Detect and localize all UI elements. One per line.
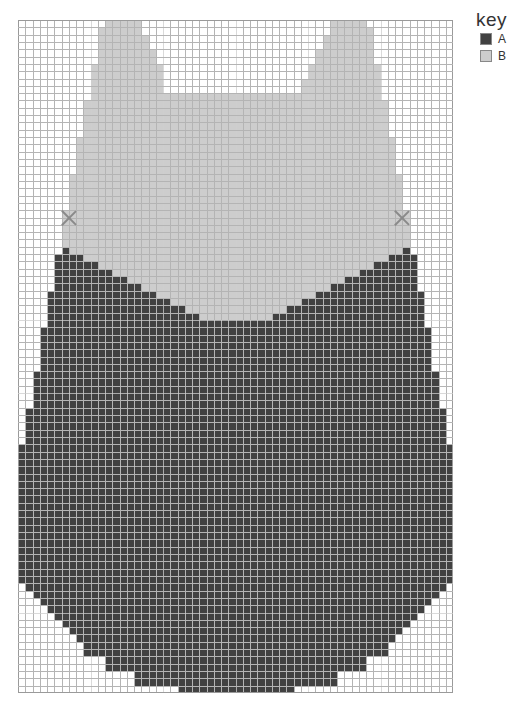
- grid-line-horizontal: [18, 247, 453, 248]
- grid-line-horizontal: [18, 627, 453, 628]
- grid-line-horizontal: [18, 517, 453, 518]
- grid-line-horizontal: [18, 598, 453, 599]
- grid-line-horizontal: [18, 144, 453, 145]
- grid-line-horizontal: [18, 86, 453, 87]
- grid-line-horizontal: [18, 415, 453, 416]
- grid-line-horizontal: [18, 656, 453, 657]
- grid-line-horizontal: [18, 137, 453, 138]
- grid-line-horizontal: [18, 108, 453, 109]
- grid-line-horizontal: [18, 64, 453, 65]
- grid-line-horizontal: [18, 561, 453, 562]
- grid-line-horizontal: [18, 42, 453, 43]
- grid-line-horizontal: [18, 269, 453, 270]
- grid-line-horizontal: [18, 692, 453, 693]
- grid-line-horizontal: [18, 430, 453, 431]
- legend-label-a: A: [498, 32, 506, 46]
- grid-line-horizontal: [18, 342, 453, 343]
- grid-line-horizontal: [18, 678, 453, 679]
- grid-line-horizontal: [18, 232, 453, 233]
- knitting-chart: [18, 20, 453, 693]
- grid-line-horizontal: [18, 634, 453, 635]
- grid-line-horizontal: [18, 298, 453, 299]
- grid-line-horizontal: [18, 466, 453, 467]
- grid-line-horizontal: [18, 488, 453, 489]
- grid-line-horizontal: [18, 210, 453, 211]
- grid-line-horizontal: [18, 349, 453, 350]
- grid-line-horizontal: [18, 583, 453, 584]
- swatch-a-icon: [480, 33, 492, 45]
- chart-gridlines: [18, 20, 453, 693]
- grid-line-horizontal: [18, 327, 453, 328]
- grid-line-horizontal: [18, 444, 453, 445]
- grid-line-horizontal: [18, 386, 453, 387]
- grid-line-horizontal: [18, 174, 453, 175]
- grid-line-horizontal: [18, 539, 453, 540]
- grid-line-horizontal: [18, 49, 453, 50]
- legend: key A B: [476, 10, 510, 64]
- grid-line-horizontal: [18, 671, 453, 672]
- grid-line-horizontal: [18, 686, 453, 687]
- grid-line-horizontal: [18, 408, 453, 409]
- grid-line-horizontal: [18, 130, 453, 131]
- grid-line-horizontal: [18, 291, 453, 292]
- grid-line-horizontal: [18, 364, 453, 365]
- grid-line-horizontal: [18, 320, 453, 321]
- grid-line-horizontal: [18, 620, 453, 621]
- grid-line-horizontal: [18, 93, 453, 94]
- grid-line-horizontal: [18, 239, 453, 240]
- grid-line-horizontal: [18, 35, 453, 36]
- grid-line-horizontal: [18, 335, 453, 336]
- grid-line-horizontal: [18, 57, 453, 58]
- grid-line-horizontal: [18, 313, 453, 314]
- grid-line-horizontal: [18, 100, 453, 101]
- grid-line-horizontal: [18, 459, 453, 460]
- legend-label-b: B: [498, 49, 506, 63]
- legend-title: key: [476, 10, 510, 30]
- grid-line-horizontal: [18, 152, 453, 153]
- swatch-b-icon: [480, 50, 492, 62]
- grid-line-horizontal: [18, 547, 453, 548]
- grid-line-horizontal: [18, 225, 453, 226]
- grid-line-horizontal: [18, 649, 453, 650]
- grid-line-horizontal: [18, 20, 453, 21]
- right-marker-x-icon: [394, 210, 410, 226]
- legend-item-b: B: [476, 48, 510, 64]
- grid-line-horizontal: [18, 452, 453, 453]
- grid-line-horizontal: [18, 254, 453, 255]
- grid-line-horizontal: [18, 188, 453, 189]
- grid-line-horizontal: [18, 305, 453, 306]
- grid-line-horizontal: [18, 371, 453, 372]
- grid-line-horizontal: [18, 400, 453, 401]
- grid-line-horizontal: [18, 569, 453, 570]
- grid-line-horizontal: [18, 283, 453, 284]
- grid-line-horizontal: [18, 159, 453, 160]
- grid-line-horizontal: [18, 196, 453, 197]
- grid-line-horizontal: [18, 437, 453, 438]
- grid-line-horizontal: [18, 181, 453, 182]
- left-marker-x-icon: [61, 210, 77, 226]
- grid-line-horizontal: [18, 276, 453, 277]
- grid-line-horizontal: [18, 495, 453, 496]
- grid-line-horizontal: [18, 481, 453, 482]
- grid-line-horizontal: [18, 79, 453, 80]
- grid-line-horizontal: [18, 71, 453, 72]
- grid-line-horizontal: [18, 422, 453, 423]
- grid-line-horizontal: [18, 261, 453, 262]
- grid-line-horizontal: [18, 115, 453, 116]
- grid-line-horizontal: [18, 166, 453, 167]
- grid-line-horizontal: [18, 642, 453, 643]
- legend-item-a: A: [476, 31, 510, 47]
- grid-line-horizontal: [18, 122, 453, 123]
- grid-line-horizontal: [18, 393, 453, 394]
- grid-line-horizontal: [18, 605, 453, 606]
- grid-line-horizontal: [18, 554, 453, 555]
- grid-line-horizontal: [18, 525, 453, 526]
- grid-line-horizontal: [18, 510, 453, 511]
- grid-line-horizontal: [18, 613, 453, 614]
- grid-line-horizontal: [18, 218, 453, 219]
- grid-line-horizontal: [18, 503, 453, 504]
- grid-line-horizontal: [18, 378, 453, 379]
- grid-line-horizontal: [18, 203, 453, 204]
- grid-line-horizontal: [18, 532, 453, 533]
- grid-line-horizontal: [18, 27, 453, 28]
